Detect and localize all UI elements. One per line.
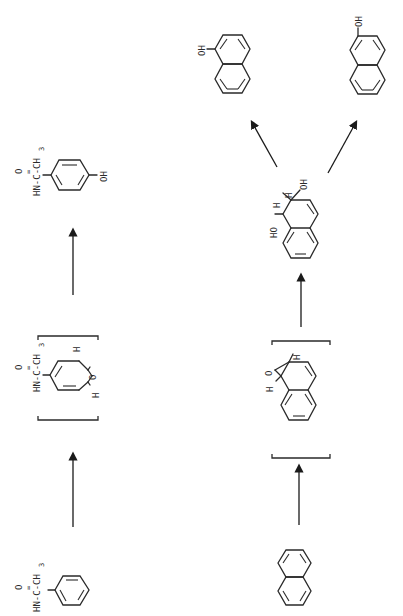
naph-oxide-h-label-2: H — [292, 355, 302, 360]
naphthalene-oxide-structure: O H H — [264, 341, 330, 458]
naph-oxide-epoxide-o: O — [264, 371, 274, 376]
bracket-right — [272, 454, 330, 458]
arrow-diol-to-1-naphthol — [253, 124, 277, 167]
acetanilide-carbonyl-o: O — [14, 585, 24, 590]
2-naphthol-hydroxyl: OH — [354, 16, 364, 27]
bracket-left — [272, 341, 330, 345]
arrow-diol-to-2-naphthol — [328, 124, 355, 173]
diol-hydroxyl-2: OH — [299, 179, 309, 190]
oxide-carbonyl-o: O — [14, 365, 24, 370]
oxide-h-label-2: H — [91, 393, 101, 398]
naph-oxide-h-label-1: H — [265, 387, 275, 392]
bracket-bottom — [38, 416, 98, 420]
acetaminophen-ch3-subscript: 3 — [38, 147, 46, 151]
arene-oxide-intermediate-structure: O H H HN-C-CH 3 O = — [14, 336, 101, 420]
acetanilide-amide-label: HN-C-CH — [32, 574, 42, 612]
diol-h-label-1: H — [272, 203, 282, 208]
oxide-h-label-1: H — [72, 347, 82, 352]
oxide-epoxide-o: O — [88, 375, 98, 380]
acetanilide-double-bond-mark: = — [25, 586, 33, 590]
acetaminophen-hydroxyl: OH — [99, 171, 109, 182]
reaction-scheme-figure: HN-C-CH 3 O = O H H HN-C-C — [0, 0, 403, 616]
oxide-double-bond-mark: = — [25, 366, 33, 370]
naphthalene-structure — [278, 550, 311, 605]
acetanilide-structure: HN-C-CH 3 O = — [14, 563, 89, 612]
oxide-amide-label: HN-C-CH — [32, 354, 42, 392]
acetanilide-ch3-subscript: 3 — [38, 563, 46, 567]
dihydrodiol-structure: HO H H OH — [269, 179, 318, 258]
1-naphthol-structure: OH — [197, 35, 250, 93]
acetaminophen-amide-label: HN-C-CH — [32, 158, 42, 196]
acetaminophen-double-bond-mark: = — [25, 170, 33, 174]
acetaminophen-carbonyl-o: O — [14, 169, 24, 174]
p-hydroxyacetanilide-structure: OH HN-C-CH 3 O = — [14, 147, 109, 196]
diol-hydroxyl-1: HO — [269, 227, 279, 238]
diol-h-label-2: H — [284, 193, 294, 198]
2-naphthol-structure: OH — [350, 16, 385, 94]
1-naphthol-hydroxyl: OH — [197, 45, 207, 56]
oxide-ch3-subscript: 3 — [38, 343, 46, 347]
bracket-top — [38, 336, 98, 340]
